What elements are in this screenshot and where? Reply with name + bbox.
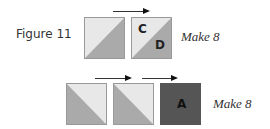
arrow-icon — [95, 78, 130, 79]
patch-label-c: C — [138, 22, 147, 36]
arrow-icon — [142, 78, 176, 79]
patch-label-a: A — [177, 97, 186, 111]
arrow-icon — [113, 11, 148, 12]
make-label-top: Make 8 — [181, 29, 220, 45]
block-hst-3 — [113, 83, 154, 125]
make-label-bottom: Make 8 — [213, 96, 252, 112]
block-hst-2 — [66, 83, 107, 125]
patch-label-d: D — [155, 38, 165, 52]
figure-label: Figure 11 — [16, 27, 72, 41]
block-hst-1 — [84, 17, 125, 59]
